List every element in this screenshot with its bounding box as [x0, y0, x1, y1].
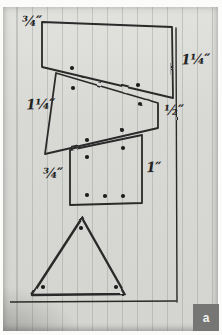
sketch-svg	[0, 0, 222, 335]
triangle-outline	[32, 218, 125, 295]
bottom-border-line	[10, 301, 176, 302]
figure-badge-letter: a	[203, 311, 210, 325]
registration-dot	[85, 193, 89, 197]
registration-dot	[85, 155, 89, 159]
registration-dot	[70, 66, 74, 70]
top-strip-outline	[42, 22, 173, 98]
registration-dot	[121, 194, 125, 198]
registration-dot	[85, 138, 89, 142]
registration-dot	[71, 86, 75, 90]
registration-dot	[138, 102, 142, 106]
figure-badge: a	[193, 304, 219, 331]
right-border-line	[176, 28, 177, 302]
registration-dot	[103, 194, 107, 198]
registration-dot	[136, 83, 140, 87]
figure-photo: ¾″1¼″1¼″½″¾″1″ a	[0, 0, 222, 335]
registration-dot	[121, 146, 125, 150]
registration-dot	[120, 128, 124, 132]
middle-strip-outline	[45, 73, 158, 154]
registration-dot	[41, 285, 45, 289]
registration-dot	[79, 226, 83, 230]
registration-dot	[114, 285, 118, 289]
